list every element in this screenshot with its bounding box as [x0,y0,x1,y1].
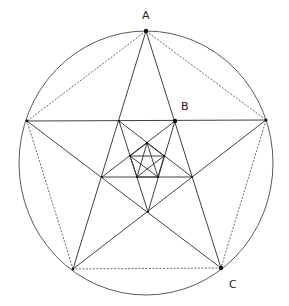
label-a: A [142,9,150,22]
intersection-point [101,176,103,178]
inner-pentagon-2-edge [130,143,147,156]
label-c: C [229,278,237,291]
pentagon-edge [27,31,146,121]
outer-star-segment [73,120,266,269]
pentagram-diagram: A B C [0,0,289,306]
outer-star-segment [27,120,266,121]
inner-pentagram-2 [130,143,164,177]
outer-pentagram [27,31,266,269]
intersection-point [174,120,176,122]
intersection-point [129,155,131,157]
intersection-point [118,120,120,122]
pentagon-edge [73,268,221,269]
inner-pentagon-2-edge [158,156,164,177]
point-bl [72,268,75,271]
pentagon-edge [27,121,73,269]
inner-star-1-segment [148,121,175,212]
inner-star-2-segment [147,143,158,177]
intersection-point [146,142,148,144]
outer-star-segment [146,31,221,268]
point-l [26,120,29,123]
pentagon-edge [146,31,266,120]
circle-outline [19,31,273,295]
intersection-point [136,176,138,178]
point-a [144,29,148,33]
inner-star-2-segment [130,156,158,177]
circumscribed-circle [19,31,273,295]
intersection-point [163,155,165,157]
pentagon-edge [221,120,266,268]
inner-star-2-segment [137,143,147,177]
outer-pentagon-dashed [27,31,266,269]
point-r [264,118,267,121]
intersection-point [191,176,193,178]
point-c [219,266,223,270]
intersection-point [147,211,149,213]
intersection-point [157,176,159,178]
inner-star-2-segment [137,156,164,177]
label-b: B [181,100,189,113]
outer-star-segment [73,31,146,269]
outer-star-segment [27,121,221,268]
